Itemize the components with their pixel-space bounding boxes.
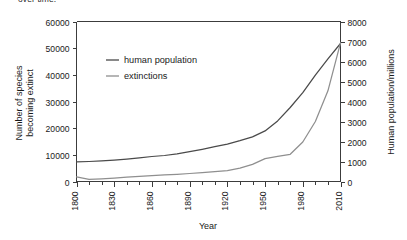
x-tick-label: 1980 [296, 191, 306, 210]
right-tick-label: 8000 [348, 18, 367, 28]
x-tick-label: 1890 [183, 191, 193, 210]
left-tick-label: 30000 [46, 98, 70, 108]
x-axis-ticks: 18001830186018901920195019802010 [70, 182, 344, 211]
x-tick-label: 2010 [334, 191, 344, 210]
right-tick-label: 7000 [348, 38, 367, 48]
y-axis-title-line2: becoming extinct [25, 69, 35, 137]
x-tick-label: 1920 [220, 191, 230, 210]
legend-label-extinctions: extinctions [124, 71, 168, 81]
right-tick-label: 6000 [348, 58, 367, 68]
left-tick-label: 10000 [46, 151, 70, 161]
x-axis-title: Year [199, 221, 217, 231]
x-tick-label: 1950 [258, 191, 268, 210]
left-tick-label: 50000 [46, 44, 70, 54]
left-tick-label: 40000 [46, 71, 70, 81]
left-tick-label: 0 [65, 178, 70, 188]
legend-label-human-population: human population [124, 55, 197, 65]
right-tick-label: 1000 [348, 158, 367, 168]
plot-frame [77, 22, 341, 182]
data-series-layer [77, 43, 341, 180]
left-tick-label: 60000 [46, 18, 70, 28]
left-tick-label: 20000 [46, 124, 70, 134]
right-tick-label: 0 [348, 178, 353, 188]
x-tick-label: 1830 [107, 191, 117, 210]
x-tick-label: 1800 [70, 191, 80, 210]
right-tick-label: 2000 [348, 138, 367, 148]
right-tick-label: 3000 [348, 118, 367, 128]
right-tick-label: 5000 [348, 78, 367, 88]
series-line-extinctions [77, 43, 341, 180]
y2-axis-title: Human population/millions [386, 49, 396, 155]
left-axis-ticks: 0100002000030000400005000060000 [46, 18, 77, 188]
y-axis-title-line1: Number of species [14, 65, 24, 141]
chart-figure: over time. 01000020000300004000050000600… [0, 0, 407, 240]
right-axis-ticks: 010002000300040005000600070008000 [341, 18, 367, 188]
extinctions-vs-population-line-chart: 0100002000030000400005000060000 01000200… [0, 0, 407, 240]
right-tick-label: 4000 [348, 98, 367, 108]
chart-legend: human populationextinctions [106, 55, 197, 81]
x-tick-label: 1860 [145, 191, 155, 210]
